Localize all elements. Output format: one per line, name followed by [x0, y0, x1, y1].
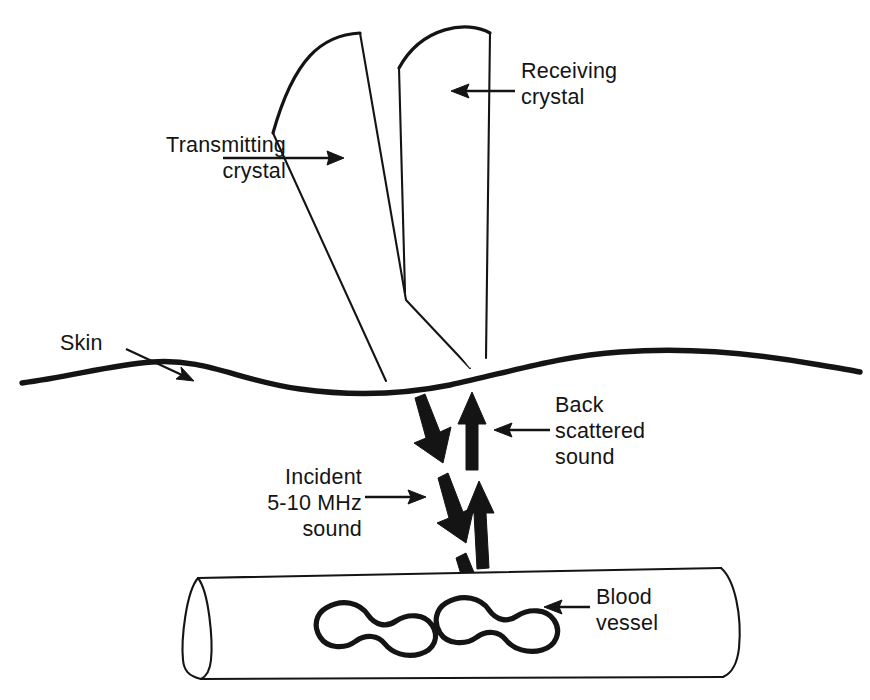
diagram-canvas: Transmitting crystal Receiving crystal S… — [0, 0, 870, 700]
backscatter-beam-arrows — [458, 392, 494, 569]
label-back-scattered-sound: Back scattered sound — [555, 392, 745, 470]
skin-surface-line — [22, 350, 860, 393]
incident-leader — [365, 490, 426, 504]
label-transmitting-crystal: Transmitting crystal — [76, 132, 286, 184]
receiving-crystal-probe — [399, 26, 490, 368]
backscatter-leader — [494, 423, 550, 437]
label-blood-vessel: Blood vessel — [596, 584, 746, 636]
label-skin: Skin — [60, 330, 150, 356]
label-incident-sound: Incident 5-10 MHz sound — [158, 464, 362, 542]
label-receiving-crystal: Receiving crystal — [521, 58, 711, 110]
